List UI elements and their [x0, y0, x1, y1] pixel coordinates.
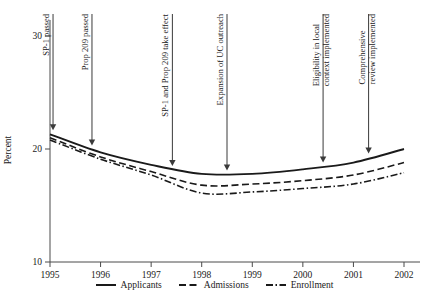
x-tick-label: 2002 [395, 270, 414, 280]
legend-label: Admissions [204, 280, 249, 290]
chart-annotation: Eligibility in localcontext implemented [312, 14, 331, 86]
x-tick-label: 1996 [91, 270, 110, 280]
legend-key-solid [96, 281, 116, 289]
legend-entry: Applicants [96, 280, 162, 290]
x-tick-label: 1998 [192, 270, 211, 280]
y-tick-label: 10 [14, 257, 42, 267]
chart-figure: Percent 102030 1995199619971998199920002… [0, 0, 429, 308]
chart-annotation: Expansion of UC outreach [216, 14, 226, 105]
x-tick-label: 1995 [41, 270, 60, 280]
chart-legend: ApplicantsAdmissionsEnrollment [0, 280, 429, 290]
chart-annotation: Prop 209 passed [81, 14, 91, 70]
legend-entry: Admissions [179, 280, 249, 290]
chart-annotation: SP-1 and Prop 209 take effect [161, 14, 171, 117]
x-tick-label: 2001 [344, 270, 363, 280]
chart-annotation: SP-1 passed [42, 14, 52, 56]
x-tick-label: 2000 [293, 270, 312, 280]
chart-annotation: Comprehensivereview implemented [358, 14, 377, 84]
legend-key-dashed [179, 281, 199, 289]
annotation-line-1: SP-1 and Prop 209 take effect [160, 14, 170, 117]
annotation-line-1: SP-1 passed [41, 14, 51, 56]
y-axis-title: Percent [3, 136, 13, 165]
legend-key-dash-dot [266, 281, 286, 289]
annotation-line-1: Prop 209 passed [80, 14, 90, 70]
x-tick-label: 1997 [142, 270, 161, 280]
legend-entry: Enrollment [266, 280, 334, 290]
annotation-line-1: Eligibility in local [311, 24, 321, 87]
annotation-line-2: review implemented [367, 14, 377, 84]
annotation-line-1: Expansion of UC outreach [215, 14, 225, 105]
annotation-line-2: context implemented [322, 14, 332, 86]
annotation-line-1: Comprehensive [357, 30, 367, 84]
x-tick-label: 1999 [243, 270, 262, 280]
legend-label: Enrollment [291, 280, 334, 290]
y-tick-label: 30 [14, 31, 42, 41]
y-tick-label: 20 [14, 144, 42, 154]
legend-label: Applicants [121, 280, 162, 290]
